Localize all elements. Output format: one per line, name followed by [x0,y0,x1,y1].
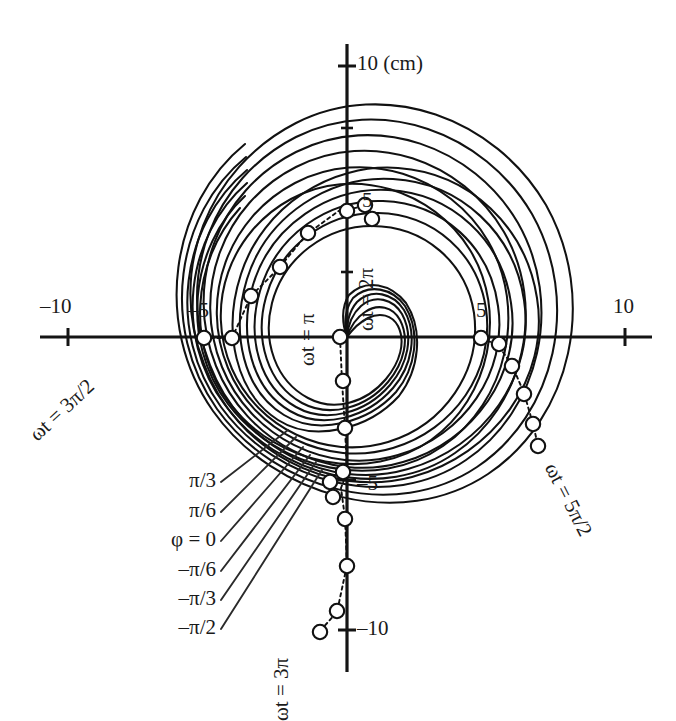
marker-point [336,465,350,479]
marker-point [492,337,506,351]
omega-t-3pi-label: ωt = 3π [271,658,292,721]
marker-point [333,330,347,344]
x-tick-label-pos5: 5 [476,300,487,321]
phase-label-pi-3: π/3 [150,470,216,491]
marker-point [273,260,287,274]
y-tick-label-neg10: –10 [357,618,389,639]
marker-point [197,331,211,345]
marker-point [301,226,315,240]
y-tick-label-neg5: –5 [357,473,378,494]
marker-point [365,212,379,226]
marker-point [338,421,352,435]
x-tick-label-pos10: 10 [613,296,634,317]
marker-point [225,331,239,345]
chain-omega-t-pi [251,210,340,296]
y-tick-label-pos5: 5 [362,190,373,211]
leader-line-neg-pi-2 [221,470,322,629]
y-axis-unit-label: 10 (cm) [357,53,423,74]
marker-point [330,604,344,618]
marker-point [526,417,540,431]
leader-line-neg-pi-3 [221,462,316,600]
marker-point [340,204,354,218]
marker-point [323,475,337,489]
marker-point [474,331,488,345]
marker-point [244,289,258,303]
marker-point [531,439,545,453]
phase-label-phi-zero: φ = 0 [140,529,216,550]
marker-point [336,374,350,388]
marker-point [505,359,519,373]
omega-t-pi-label: ωt = π [297,313,318,366]
marker-point [517,387,531,401]
marker-point [313,625,327,639]
omega-t-2pi-label: ωt = 2π [356,268,377,331]
marker-point [338,512,352,526]
marker-point [326,490,340,504]
phase-label-neg-pi-2: –π/2 [140,617,216,638]
marker-point [340,559,354,573]
axes-group [40,44,652,672]
phase-label-neg-pi-6: –π/6 [140,559,216,580]
x-tick-label-neg10: –10 [40,296,72,317]
phase-label-pi-6: π/6 [150,500,216,521]
phase-label-neg-pi-3: –π/3 [140,588,216,609]
x-tick-label-neg5: –5 [188,300,209,321]
